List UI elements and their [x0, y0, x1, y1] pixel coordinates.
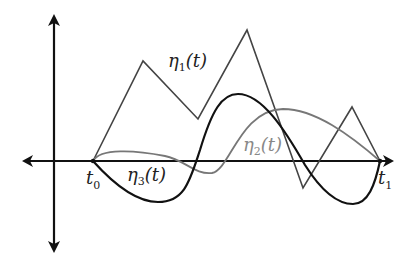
- eta2-label: η2(t): [243, 134, 282, 158]
- t1-point: [378, 159, 382, 163]
- t1-label: t1: [378, 167, 392, 192]
- diagram-svg: η1(t) η2(t) η3(t) t0 t1: [0, 0, 415, 269]
- eta1-label: η1(t): [168, 50, 207, 74]
- t0-label: t0: [86, 167, 100, 192]
- eta3-curve: [93, 94, 380, 204]
- t0-point: [91, 159, 95, 163]
- diagram-canvas: η1(t) η2(t) η3(t) t0 t1: [0, 0, 415, 269]
- eta3-label: η3(t): [127, 164, 166, 188]
